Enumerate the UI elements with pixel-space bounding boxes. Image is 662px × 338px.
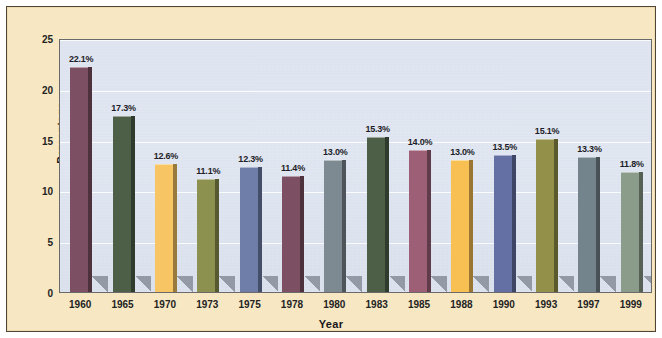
bar-side-edge	[554, 139, 558, 292]
x-axis-ticks: 1960196519701973197519781980198319851988…	[59, 299, 652, 315]
x-tick-label: 1997	[577, 299, 599, 310]
y-tick-label: 15	[42, 135, 53, 146]
bar-shadow	[473, 276, 489, 292]
y-tick-label: 25	[42, 34, 53, 45]
bar-shadow	[177, 276, 193, 292]
bar[interactable]: 12.6%	[155, 164, 177, 292]
bar-top-highlight	[621, 172, 639, 173]
bar-series: 22.1%17.3%12.6%11.1%12.3%11.4%13.0%15.3%…	[60, 40, 651, 292]
bar-body	[155, 164, 177, 292]
bar-body	[197, 179, 219, 292]
bar-side-edge	[427, 150, 431, 292]
bar-side-edge	[385, 137, 389, 292]
bar-value-label: 22.1%	[69, 54, 94, 64]
bar-shadow	[135, 276, 151, 292]
bar-shadow	[389, 276, 405, 292]
bar-value-label: 11.1%	[196, 166, 220, 176]
bar-value-label: 11.8%	[620, 159, 644, 169]
x-tick-label: 1985	[408, 299, 430, 310]
bar-top-highlight	[197, 179, 215, 180]
bar-value-label: 13.0%	[450, 147, 475, 157]
bar-value-label: 15.1%	[535, 126, 560, 136]
bar-value-label: 12.3%	[238, 154, 263, 164]
bar-top-highlight	[367, 137, 385, 138]
bar-side-edge	[258, 167, 262, 292]
bar[interactable]: 11.4%	[282, 176, 304, 292]
bar[interactable]: 13.3%	[578, 157, 600, 292]
bar-shadow	[558, 276, 574, 292]
x-tick-label: 1978	[281, 299, 303, 310]
bar[interactable]: 17.3%	[113, 116, 135, 292]
bar-body	[240, 167, 262, 292]
bar-side-edge	[639, 172, 643, 292]
bar-body	[282, 176, 304, 292]
bar[interactable]: 15.1%	[536, 139, 558, 292]
bar[interactable]: 11.1%	[197, 179, 219, 292]
y-tick-label: 5	[47, 237, 53, 248]
bar-shadow	[346, 276, 362, 292]
bar-side-edge	[131, 116, 135, 292]
bar-side-edge	[173, 164, 177, 292]
chart-figure: Percentage 0510152025 22.1%17.3%12.6%11.…	[0, 0, 662, 338]
bar-side-edge	[300, 176, 304, 292]
x-tick-label: 1975	[238, 299, 260, 310]
bar-value-label: 13.0%	[323, 147, 348, 157]
bar[interactable]: 13.0%	[324, 160, 346, 292]
bar-shadow	[643, 276, 652, 292]
bar-top-highlight	[409, 150, 427, 151]
bar-value-label: 17.3%	[111, 103, 136, 113]
bar-value-label: 12.6%	[154, 151, 179, 161]
bar-top-highlight	[494, 155, 512, 156]
bar-value-label: 13.5%	[492, 142, 517, 152]
bar-shadow	[304, 276, 320, 292]
y-tick-label: 10	[42, 186, 53, 197]
chart-panel: Percentage 0510152025 22.1%17.3%12.6%11.…	[6, 6, 656, 332]
bar-top-highlight	[155, 164, 173, 165]
bar-top-highlight	[578, 157, 596, 158]
x-tick-label: 1960	[69, 299, 91, 310]
x-tick-label: 1973	[196, 299, 218, 310]
bar-top-highlight	[536, 139, 554, 140]
bar-top-highlight	[451, 160, 469, 161]
bar[interactable]: 15.3%	[367, 137, 389, 292]
y-axis-ticks: 0510152025	[27, 39, 53, 293]
x-tick-label: 1999	[620, 299, 642, 310]
y-tick-label: 20	[42, 84, 53, 95]
bar-side-edge	[342, 160, 346, 292]
bar-shadow	[262, 276, 278, 292]
x-tick-label: 1990	[493, 299, 515, 310]
bar-value-label: 11.4%	[281, 163, 305, 173]
bar-side-edge	[215, 179, 219, 292]
bar-value-label: 13.3%	[577, 144, 602, 154]
bar-top-highlight	[324, 160, 342, 161]
x-tick-label: 1970	[154, 299, 176, 310]
bar-side-edge	[469, 160, 473, 292]
bar[interactable]: 22.1%	[70, 67, 92, 292]
bar[interactable]: 11.8%	[621, 172, 643, 292]
y-tick-label: 0	[47, 288, 53, 299]
bar-shadow	[431, 276, 447, 292]
bar-shadow	[600, 276, 616, 292]
bar[interactable]: 13.0%	[451, 160, 473, 292]
bar-top-highlight	[70, 67, 88, 68]
bar-top-highlight	[282, 176, 300, 177]
bar[interactable]: 13.5%	[494, 155, 516, 292]
x-tick-label: 1993	[535, 299, 557, 310]
bar-body	[494, 155, 516, 292]
x-axis-label: Year	[7, 318, 655, 330]
bar-body	[409, 150, 431, 292]
bar-value-label: 15.3%	[365, 124, 390, 134]
bar[interactable]: 14.0%	[409, 150, 431, 292]
bar-body	[367, 137, 389, 292]
bar[interactable]: 12.3%	[240, 167, 262, 292]
bar-side-edge	[596, 157, 600, 292]
bar-top-highlight	[240, 167, 258, 168]
bar-body	[70, 67, 92, 292]
bar-shadow	[92, 276, 108, 292]
x-tick-label: 1980	[323, 299, 345, 310]
bar-shadow	[516, 276, 532, 292]
bar-body	[451, 160, 473, 292]
bar-value-label: 14.0%	[408, 137, 433, 147]
bar-body	[578, 157, 600, 292]
bar-body	[324, 160, 346, 292]
